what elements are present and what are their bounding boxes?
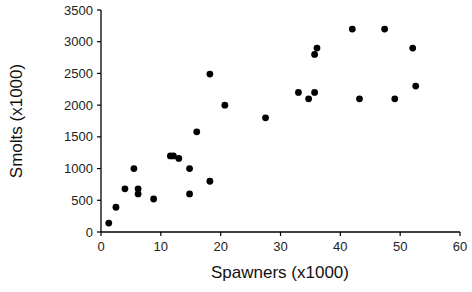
data-point (221, 102, 228, 109)
data-point (105, 220, 112, 227)
data-point (122, 185, 129, 192)
x-tick-label: 50 (393, 239, 407, 254)
plot-area (105, 26, 419, 227)
x-tick-label: 60 (453, 239, 467, 254)
y-tick-label: 0 (86, 225, 93, 240)
data-point (356, 95, 363, 102)
data-point (349, 26, 356, 33)
y-tick-label: 2500 (64, 66, 93, 81)
data-point (113, 204, 120, 211)
data-point (150, 196, 157, 203)
data-point (295, 89, 302, 96)
data-point (186, 191, 193, 198)
y-axis: 0500100015002000250030003500 (64, 3, 101, 240)
y-tick-label: 1500 (64, 129, 93, 144)
data-point (206, 71, 213, 78)
y-tick-label: 3500 (64, 3, 93, 18)
y-axis-title: Smolts (x1000) (7, 64, 26, 178)
data-point (186, 165, 193, 172)
y-tick-label: 1000 (64, 161, 93, 176)
data-point (381, 26, 388, 33)
y-tick-label: 500 (71, 193, 93, 208)
x-tick-label: 10 (154, 239, 168, 254)
data-point (311, 51, 318, 58)
x-tick-label: 0 (97, 239, 104, 254)
scatter-chart: 0500100015002000250030003500 01020304050… (0, 0, 472, 292)
x-tick-label: 20 (213, 239, 227, 254)
y-tick-label: 2000 (64, 98, 93, 113)
data-point (409, 45, 416, 52)
x-axis: 0102030405060 (97, 232, 467, 254)
data-point (391, 95, 398, 102)
data-point (131, 165, 138, 172)
data-point (311, 89, 318, 96)
y-tick-label: 3000 (64, 34, 93, 49)
data-point (262, 114, 269, 121)
data-point (193, 128, 200, 135)
data-point (314, 45, 321, 52)
data-point (175, 155, 182, 162)
data-point (305, 95, 312, 102)
x-tick-label: 40 (333, 239, 347, 254)
data-point (206, 178, 213, 185)
data-point (412, 83, 419, 90)
x-tick-label: 30 (273, 239, 287, 254)
data-point (135, 191, 142, 198)
x-axis-title: Spawners (x1000) (211, 263, 349, 282)
